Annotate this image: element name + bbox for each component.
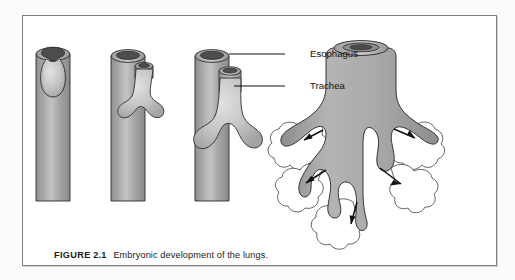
label-esophagus: Esophagus [310, 48, 358, 59]
figure-caption: FIGURE2.1Embryonic development of the lu… [54, 250, 268, 260]
stage-1-lung-bud [36, 47, 70, 201]
stage-3-bronchi [194, 50, 263, 201]
stage-4-bronchial-tree [268, 41, 444, 250]
stage-2-bifurcation [111, 50, 164, 201]
caption-text: Embryonic development of the lungs. [113, 250, 268, 260]
figure-frame: Esophagus Trachea FIGURE2.1Embryonic dev… [22, 15, 497, 266]
caption-number: 2.1 [93, 250, 106, 260]
lung-development-diagram [23, 16, 498, 267]
caption-label: FIGURE [54, 250, 91, 260]
figure-page: Esophagus Trachea FIGURE2.1Embryonic dev… [0, 0, 515, 280]
label-trachea: Trachea [310, 80, 345, 91]
